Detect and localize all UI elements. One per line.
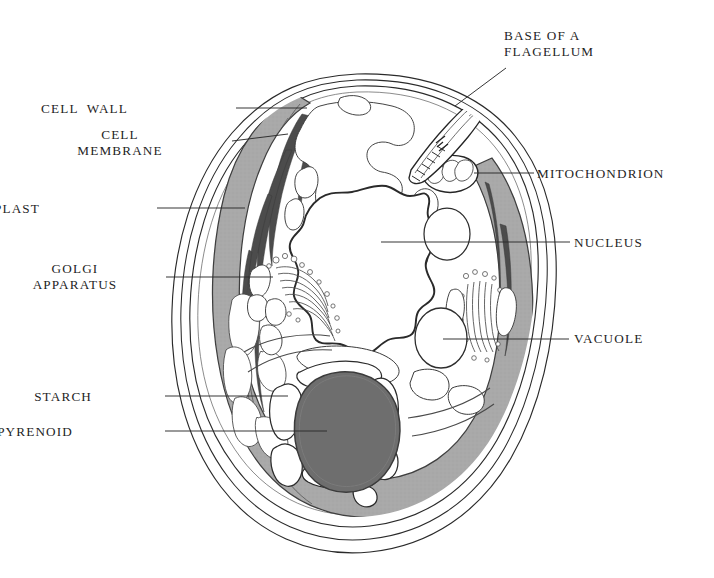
leader-base-of-a-flagellum [455,68,506,106]
vacuole-lower [415,308,467,368]
label-line: VACUOLE [574,331,643,347]
label-line: CELL [77,127,162,143]
label-line: PYRENOID [0,424,73,440]
label-chloroplast: CHLOROPLAST [0,201,40,217]
label-cell-membrane: CELLMEMBRANE [77,127,162,159]
label-line: APPARATUS [33,277,118,293]
label-vacuole: VACUOLE [574,331,643,347]
label-line: FLAGELLUM [504,44,594,60]
label-starch: STARCH [34,389,92,405]
label-cell-wall: CELL WALL [41,101,128,117]
label-line: STARCH [34,389,92,405]
label-line: BASE OF A [504,28,594,44]
label-line: NUCLEUS [574,235,643,251]
figure-canvas: BASE OF AFLAGELLUMCELL WALLCELLMEMBRANEM… [0,0,714,578]
label-line: MITOCHONDRION [537,166,665,182]
label-golgi-apparatus: GOLGIAPPARATUS [33,261,118,293]
label-nucleus: NUCLEUS [574,235,643,251]
label-mitochondrion: MITOCHONDRION [537,166,665,182]
label-line: MEMBRANE [77,143,162,159]
vacuole-upper [424,208,470,260]
label-line: GOLGI [33,261,118,277]
label-pyrenoid: PYRENOID [0,424,73,440]
label-line: CELL WALL [41,101,128,117]
label-line: CHLOROPLAST [0,201,40,217]
label-base-of-a-flagellum: BASE OF AFLAGELLUM [504,28,594,60]
pyrenoid-body [294,372,400,492]
